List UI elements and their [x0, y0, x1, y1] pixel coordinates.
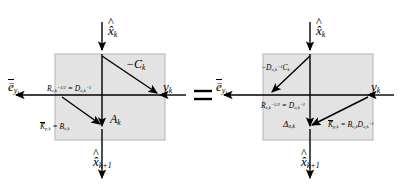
- right-bottom-output-subscript: k+1: [307, 161, 320, 170]
- right-edge-label-DC: −Do,k−1Ck: [261, 64, 290, 73]
- x-hat-symbol: x̂: [301, 155, 307, 168]
- left-output-subscript: yk: [14, 86, 20, 95]
- right-bottom-output-label: x̂k+1: [301, 155, 320, 170]
- left-gain-label-top: Re,k−1/2 = Do,k−1: [47, 85, 91, 94]
- right-gain-label-top: Re,k−1/2 = Do,k−1: [261, 102, 305, 111]
- right-gain-label-bottom: K̄p,k = Bo,kDo,k−1: [328, 120, 374, 130]
- right-input-subscript: k: [377, 86, 381, 95]
- left-top-input-label: x̂k: [108, 24, 117, 39]
- left-edge-label-A: Ak: [110, 113, 121, 126]
- x-hat-symbol: x̂: [316, 24, 322, 37]
- right-input-label: yk: [371, 80, 380, 95]
- left-bottom-output-label: x̂k+1: [93, 155, 112, 170]
- diagram-vector-layer: [0, 0, 416, 194]
- right-top-input-label: x̂k: [316, 24, 325, 39]
- right-output-subscript: yk: [222, 86, 228, 95]
- left-block-box: [55, 54, 165, 140]
- left-edge-label-C: −Ck: [126, 58, 145, 71]
- right-top-input-subscript: k: [322, 30, 326, 39]
- right-edge-label-delta: Δo,k: [283, 120, 295, 130]
- left-output-label: ēyk: [8, 79, 20, 96]
- left-input-subscript: k: [169, 86, 173, 95]
- left-gain-label-bottom: K̄p,k = Bo,k: [40, 122, 70, 132]
- right-output-label: ēyk: [216, 79, 228, 96]
- x-hat-symbol: x̂: [93, 155, 99, 168]
- figure-canvas: x̂k x̂k+1 ēyk yk −Ck Ak Re,k−1/2 = Do,k…: [0, 0, 416, 194]
- left-input-label: yk: [163, 80, 172, 95]
- left-bottom-output-subscript: k+1: [99, 161, 112, 170]
- x-hat-symbol: x̂: [108, 24, 114, 37]
- left-top-input-subscript: k: [114, 30, 118, 39]
